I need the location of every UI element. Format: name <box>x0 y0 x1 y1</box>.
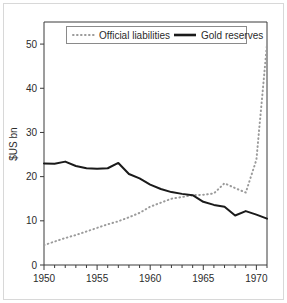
y-tick-label: 20 <box>26 171 38 182</box>
y-tick-label: 50 <box>26 39 38 50</box>
x-tick-label: 1950 <box>33 273 56 284</box>
plot-area-background <box>44 22 267 265</box>
legend-label-gold-reserves: Gold reserves <box>201 30 263 41</box>
y-tick-label: 10 <box>26 215 38 226</box>
legend-label-official-liabilities: Official liabilities <box>99 30 170 41</box>
y-tick-label: 40 <box>26 83 38 94</box>
y-axis-ticks: 01020304050 <box>26 39 44 271</box>
line-chart: 01020304050 19501955196019651970 $US bn … <box>0 0 287 303</box>
x-tick-label: 1960 <box>139 273 162 284</box>
x-tick-label: 1965 <box>192 273 215 284</box>
x-tick-label: 1955 <box>86 273 109 284</box>
y-tick-label: 0 <box>31 260 37 271</box>
chart-figure: 01020304050 19501955196019651970 $US bn … <box>0 0 287 303</box>
chart-legend: Official liabilities Gold reserves <box>67 27 264 44</box>
y-tick-label: 30 <box>26 127 38 138</box>
x-tick-label: 1970 <box>245 273 268 284</box>
x-axis-ticks: 19501955196019651970 <box>33 265 268 284</box>
y-axis-title: $US bn <box>8 127 19 160</box>
